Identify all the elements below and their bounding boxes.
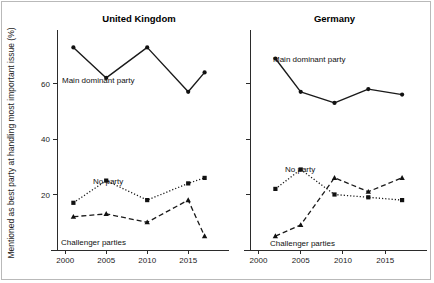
annotation-germany-main-dominant-party: Main dominant party — [273, 55, 345, 64]
x-tick-label-uk-2005: 2005 — [97, 256, 115, 265]
x-tick-label-germany-2005: 2005 — [292, 256, 310, 265]
panel-title-uk: United Kingdom — [102, 13, 175, 24]
data-point-germany-0-4 — [400, 93, 404, 97]
x-tick-label-germany-2010: 2010 — [334, 256, 352, 265]
annotation-germany-no-party: No party — [285, 165, 315, 174]
data-point-uk-0-2 — [145, 45, 149, 49]
data-point-uk-1-2 — [145, 198, 149, 202]
panel-uk: United Kingdom204060Mentioned as best pa… — [6, 13, 229, 265]
annotation-uk-no-party: No party — [93, 177, 123, 186]
data-point-germany-1-4 — [400, 198, 404, 202]
panel-germany: Germany2000200520102015Main dominant par… — [244, 13, 427, 265]
data-point-germany-1-0 — [273, 187, 277, 191]
annotation-germany-challenger-parties: Challenger parties — [270, 239, 335, 248]
data-point-germany-1-2 — [332, 192, 336, 196]
annotation-uk-main-dominant-party: Main dominant party — [62, 76, 134, 85]
x-tick-label-uk-2015: 2015 — [179, 256, 197, 265]
data-point-uk-1-4 — [203, 176, 207, 180]
annotation-uk-challenger-parties: Challenger parties — [61, 238, 126, 247]
data-point-germany-0-3 — [366, 87, 370, 91]
data-point-germany-2-1 — [298, 222, 303, 227]
data-point-germany-2-4 — [399, 175, 404, 180]
y-tick-label-40: 40 — [41, 135, 50, 144]
data-point-uk-2-1 — [104, 211, 109, 216]
y-tick-label-20: 20 — [41, 191, 50, 200]
panel-title-germany: Germany — [314, 13, 356, 24]
x-tick-label-germany-2015: 2015 — [376, 256, 394, 265]
y-tick-label-60: 60 — [41, 80, 50, 89]
data-point-germany-0-2 — [332, 101, 336, 105]
data-point-germany-0-1 — [299, 90, 303, 94]
series-line-germany-2 — [275, 178, 402, 236]
data-point-uk-1-3 — [186, 181, 190, 185]
data-point-uk-2-3 — [186, 197, 191, 202]
data-point-germany-1-3 — [366, 195, 370, 199]
data-point-germany-2-2 — [332, 175, 337, 180]
series-line-germany-1 — [275, 170, 402, 201]
y-axis-title: Mentioned as best party at handling most… — [6, 27, 16, 258]
chart-svg: United Kingdom204060Mentioned as best pa… — [0, 0, 434, 283]
x-tick-label-uk-2000: 2000 — [56, 256, 74, 265]
data-point-uk-0-0 — [71, 45, 75, 49]
data-point-uk-0-3 — [186, 90, 190, 94]
series-line-uk-0 — [73, 47, 204, 91]
x-tick-label-uk-2010: 2010 — [138, 256, 156, 265]
data-point-uk-1-0 — [71, 201, 75, 205]
series-line-germany-0 — [275, 59, 402, 103]
series-line-uk-2 — [73, 200, 204, 236]
figure-container: United Kingdom204060Mentioned as best pa… — [0, 0, 434, 283]
x-tick-label-germany-2000: 2000 — [250, 256, 268, 265]
data-point-uk-0-4 — [203, 70, 207, 74]
data-point-uk-2-4 — [202, 233, 207, 238]
